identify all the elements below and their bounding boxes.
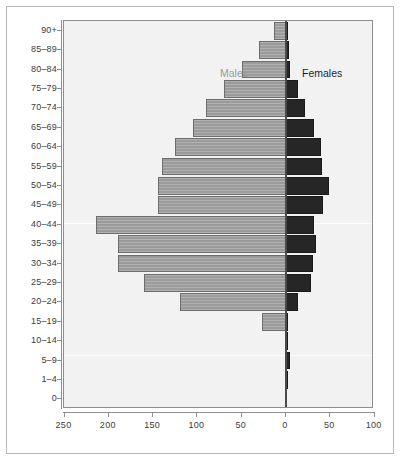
y-axis-tick (57, 69, 61, 70)
legend-label-males: Males (220, 67, 248, 79)
x-axis-tick-label: 0 (282, 420, 287, 430)
x-axis-tick-label: 150 (144, 420, 160, 430)
x-axis-tick (285, 412, 286, 417)
bar-male-20-24 (180, 293, 286, 311)
x-axis-tick (64, 412, 65, 417)
y-axis-tick (57, 166, 61, 167)
x-axis-tick-label: 100 (188, 420, 204, 430)
y-axis-tick (57, 127, 61, 128)
bar-female-65-69 (286, 119, 314, 137)
y-axis-labels: 90+85–8980–8475–7970–7465–6960–6455–5950… (0, 0, 57, 460)
y-axis-tick-label: 35–39 (5, 238, 57, 248)
panel-wash-line (64, 355, 372, 356)
bar-female-35-39 (286, 235, 316, 253)
x-axis-tick (152, 412, 153, 417)
bar-male-25-29 (144, 274, 286, 292)
population-pyramid-figure: 90+85–8980–8475–7970–7465–6960–6455–5950… (0, 0, 400, 460)
bar-male-80-84 (242, 61, 286, 79)
y-axis-tick (57, 30, 61, 31)
x-axis-spine (63, 412, 374, 413)
plot-area: Males Females (63, 20, 373, 408)
bar-female-55-59 (286, 158, 322, 176)
y-axis-tick-label: 40–44 (5, 219, 57, 229)
bar-male-45-49 (158, 196, 286, 214)
y-axis-tick-label: 20–24 (5, 296, 57, 306)
bar-female-50-54 (286, 177, 329, 195)
y-axis-tick-label: 70–74 (5, 102, 57, 112)
y-axis-tick-label: 65–69 (5, 122, 57, 132)
y-axis-tick (57, 146, 61, 147)
y-axis-tick (57, 360, 61, 361)
bar-female-20-24 (286, 293, 298, 311)
bar-female-45-49 (286, 196, 323, 214)
y-axis-tick (57, 301, 61, 302)
y-axis-tick (57, 88, 61, 89)
y-axis-tick-label: 5–9 (5, 355, 57, 365)
y-axis-tick-label: 1–4 (5, 374, 57, 384)
y-axis-tick-label: 50–54 (5, 180, 57, 190)
bar-female-30-34 (286, 255, 313, 273)
bar-male-85-89 (259, 41, 286, 59)
x-axis-tick (241, 412, 242, 417)
y-axis-tick-label: 60–64 (5, 141, 57, 151)
y-axis-tick-label: 15–19 (5, 316, 57, 326)
bar-male-30-34 (118, 255, 286, 273)
x-axis-tick (374, 412, 375, 417)
y-axis-tick-label: 85–89 (5, 44, 57, 54)
x-axis-tick-label: 100 (366, 420, 382, 430)
x-axis-tick (329, 412, 330, 417)
y-axis-tick (57, 243, 61, 244)
bar-male-65-69 (193, 119, 286, 137)
bar-male-35-39 (118, 235, 286, 253)
y-axis-tick-label: 25–29 (5, 277, 57, 287)
y-axis-tick (57, 224, 61, 225)
y-axis-tick (57, 263, 61, 264)
bar-male-70-74 (206, 99, 286, 117)
legend-label-females: Females (302, 67, 342, 79)
y-axis-tick-label: 55–59 (5, 161, 57, 171)
y-axis-tick-label: 90+ (5, 25, 57, 35)
y-axis-tick-label: 10–14 (5, 335, 57, 345)
bar-male-40-44 (96, 216, 286, 234)
y-axis-tick (57, 379, 61, 380)
y-axis-tick-label: 0 (5, 393, 57, 403)
x-axis-tick (108, 412, 109, 417)
bar-female-70-74 (286, 99, 305, 117)
x-axis-tick-label: 250 (56, 420, 72, 430)
y-axis-tick (57, 282, 61, 283)
bar-male-15-19 (262, 313, 286, 331)
x-axis-tick-label: 50 (235, 420, 246, 430)
bar-male-60-64 (175, 138, 286, 156)
y-axis-tick (57, 185, 61, 186)
y-axis-tick (57, 398, 61, 399)
bar-female-60-64 (286, 138, 321, 156)
y-axis-tick-label: 75–79 (5, 83, 57, 93)
y-axis-tick-label: 30–34 (5, 258, 57, 268)
x-axis-tick-label: 200 (100, 420, 116, 430)
y-axis-tick (57, 107, 61, 108)
y-axis-spine (61, 20, 62, 409)
y-axis-tick (57, 340, 61, 341)
zero-axis-line (285, 21, 287, 407)
y-axis-tick (57, 321, 61, 322)
bar-male-50-54 (158, 177, 286, 195)
bar-female-40-44 (286, 216, 314, 234)
bar-female-75-79 (286, 80, 298, 98)
bar-male-55-59 (162, 158, 286, 176)
y-axis-tick-label: 80–84 (5, 64, 57, 74)
x-axis-tick-label: 50 (324, 420, 335, 430)
bar-male-75-79 (224, 80, 286, 98)
y-axis-tick (57, 204, 61, 205)
y-axis-tick (57, 49, 61, 50)
bar-female-25-29 (286, 274, 311, 292)
x-axis-tick (196, 412, 197, 417)
y-axis-tick-label: 45–49 (5, 199, 57, 209)
